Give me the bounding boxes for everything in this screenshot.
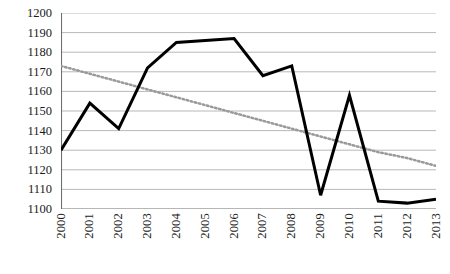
x-axis-tick-label: 2011	[372, 213, 385, 238]
y-axis-tick-label: 1200	[27, 7, 52, 20]
y-axis-tick-label: 1100	[27, 203, 52, 216]
x-axis-tick-label: 2008	[285, 213, 298, 239]
y-axis-tick-label: 1170	[27, 66, 52, 79]
y-axis-tick-label: 1140	[27, 124, 52, 137]
trendline-series	[61, 66, 436, 166]
x-axis-tick-label: 2006	[228, 213, 241, 239]
axis-lines	[61, 13, 62, 209]
y-axis-tick-label: 1160	[27, 85, 52, 98]
x-axis-tick-labels: 2000200120022003200420052006200720082009…	[61, 213, 436, 271]
y-axis-tick-label: 1130	[27, 144, 52, 157]
x-axis-tick-label: 2003	[141, 213, 154, 239]
y-axis-tick-label: 1190	[27, 26, 52, 39]
plot-area	[61, 13, 436, 209]
y-axis-tick-label: 1110	[28, 183, 52, 196]
y-axis-tick-label: 1120	[27, 164, 52, 177]
x-axis-tick-label: 2005	[199, 213, 212, 239]
x-axis-tick-label: 2010	[343, 213, 356, 239]
y-axis-tick-label: 1180	[27, 46, 52, 59]
line-chart: 1200119011801170116011501140113011201110…	[0, 0, 450, 274]
x-axis-tick-label: 2001	[83, 213, 96, 239]
x-axis-tick-label: 2004	[170, 213, 183, 239]
gridlines	[61, 13, 436, 209]
x-axis-tick-label: 2007	[256, 213, 269, 239]
trendline-path	[61, 66, 436, 166]
x-axis-tick-label: 2013	[430, 213, 443, 239]
plot-svg	[61, 13, 436, 209]
x-axis-tick-label: 2002	[112, 213, 125, 239]
x-axis-tick-label: 2012	[401, 213, 414, 239]
y-axis-tick-labels: 1200119011801170116011501140113011201110…	[0, 13, 56, 209]
series-path	[61, 38, 436, 203]
y-axis-tick-label: 1150	[27, 105, 52, 118]
data-series-line	[61, 38, 436, 203]
x-axis-tick-label: 2009	[314, 213, 327, 239]
x-axis-tick-label: 2000	[55, 213, 68, 239]
